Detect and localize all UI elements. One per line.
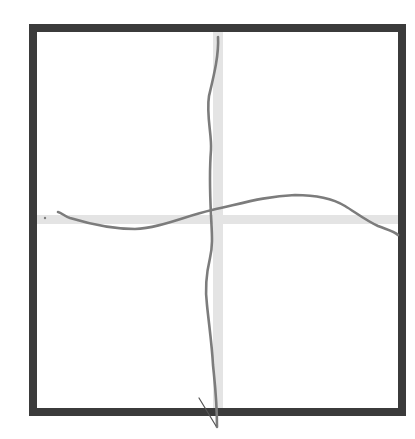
stray-ink-dot: [44, 217, 46, 219]
diagram-canvas: [0, 0, 415, 439]
